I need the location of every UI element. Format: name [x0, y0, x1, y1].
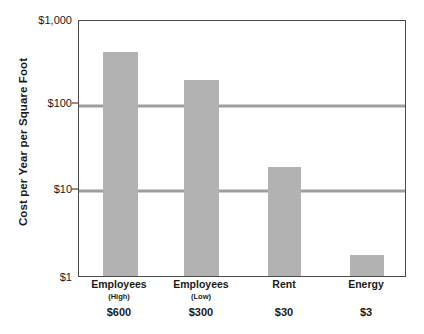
x-label-category-1: Employees [158, 278, 244, 291]
x-label-value-0: $600 [76, 305, 162, 320]
x-label-group-employees-high: Employees (High) $600 [76, 278, 162, 320]
x-label-sublabel-1: (Low) [158, 291, 244, 302]
x-label-group-employees-low: Employees (Low) $300 [158, 278, 244, 320]
x-label-group-rent: Rent $30 [243, 278, 325, 320]
x-label-value-2: $30 [243, 305, 325, 320]
x-label-group-energy: Energy $3 [325, 278, 407, 320]
y-tick-label-10: $10 [0, 183, 78, 195]
x-label-category-3: Energy [325, 278, 407, 291]
chart-figure: Cost per Year per Square Foot $1,000 $10… [0, 0, 424, 334]
x-label-value-1: $300 [158, 305, 244, 320]
x-label-sublabel-0: (High) [76, 291, 162, 302]
x-label-category-0: Employees [76, 278, 162, 291]
plot-area [78, 20, 406, 277]
bar-energy [350, 255, 384, 276]
y-tick-label-1000: $1,000 [0, 14, 78, 26]
bar-employees-high [103, 52, 138, 276]
y-tick-label-100: $100 [0, 97, 78, 109]
y-tick-label-1: $1 [0, 271, 78, 283]
x-label-value-3: $3 [325, 305, 407, 320]
x-label-category-2: Rent [243, 278, 325, 291]
y-axis-tick-labels: $1,000 $100 $10 $1 [0, 0, 78, 334]
bar-employees-low [184, 80, 219, 276]
bar-rent [268, 167, 301, 276]
x-axis-labels: Employees (High) $600 Employees (Low) $3… [78, 278, 406, 334]
